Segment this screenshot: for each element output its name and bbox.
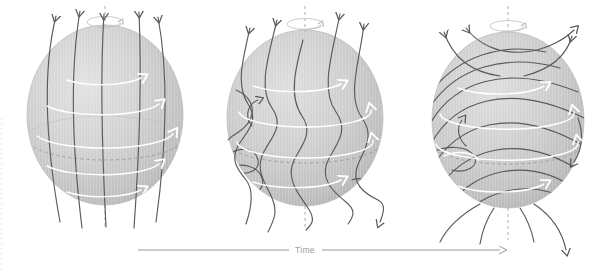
panel-1-sphere-group [27, 6, 183, 228]
panel-3-south-line-3 [520, 208, 534, 242]
panel-3-south-outflow [440, 204, 566, 250]
panel-3-sphere-texture [432, 32, 584, 208]
omega-effect-diagram: Time [0, 0, 610, 275]
panel-3-south-line-2 [480, 208, 494, 244]
time-axis-label: Time [295, 245, 315, 255]
time-axis: Time [138, 245, 500, 255]
figure-canvas: Time [0, 0, 610, 275]
panel-3-south-line-1 [440, 204, 480, 242]
panel-2-sphere-group [227, 6, 384, 232]
panel-3-sphere-group [430, 6, 584, 250]
panel-3-south-line-4 [534, 204, 566, 250]
